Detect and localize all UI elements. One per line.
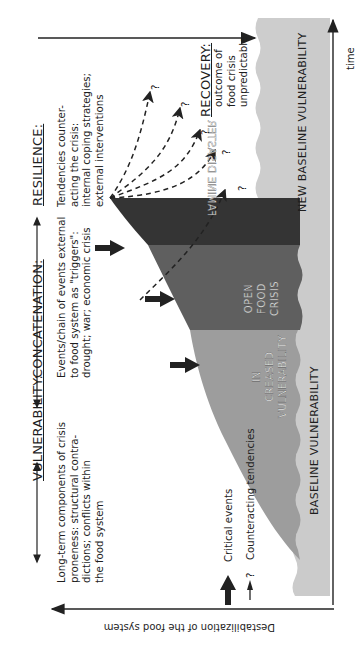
critical-event-arrow-2 — [145, 291, 175, 307]
heading-vulnerability: VULNERABILITY: — [30, 375, 45, 481]
legend-counteracting-label: Counteracting tendencies — [245, 429, 258, 560]
desc-resilience: Tendencies counter- acting the crisis: i… — [56, 73, 106, 207]
desc-concatenation: Events/chain of events external to food … — [56, 217, 94, 378]
heading-resilience: RESILIENCE: — [30, 124, 45, 206]
outcome-question-1: ? — [150, 85, 163, 90]
heading-recovery: RECOVERY: — [198, 43, 213, 117]
label-baseline-vulnerability: BASELINE VULNERABILITY — [308, 366, 321, 515]
outcome-question-3: ? — [200, 130, 213, 135]
new-baseline-vulnerability-band — [256, 18, 301, 225]
heading-concatenation: CONCATENATION: — [30, 259, 45, 378]
time-axis-label: time — [345, 47, 356, 70]
label-increased-vulnerability: IN CREASED VULNERABILITY — [250, 335, 289, 418]
outcome-question-2: ? — [180, 102, 193, 107]
label-new-baseline-vulnerability: NEW BASELINE VULNERABILITY — [296, 32, 309, 212]
critical-event-arrow-1 — [95, 240, 125, 256]
label-open-food-crisis: OPEN FOOD CRISIS — [242, 281, 281, 316]
legend-critical-event-icon — [220, 575, 236, 605]
legend-counteracting-icon — [247, 580, 253, 600]
legend-question-mark: ? — [245, 573, 258, 578]
destabilization-axis-label: Destabilization of the food system — [104, 622, 275, 633]
critical-event-arrow-3 — [170, 357, 200, 373]
legend-critical-events-label: Critical events — [223, 489, 236, 562]
outcome-question-5: ? — [237, 186, 250, 191]
desc-recovery: outcome of food crisis unpredictable — [213, 37, 251, 107]
outcome-question-4: ? — [221, 150, 234, 155]
desc-vulnerability: Long-term components of crisis proneness… — [56, 422, 106, 583]
